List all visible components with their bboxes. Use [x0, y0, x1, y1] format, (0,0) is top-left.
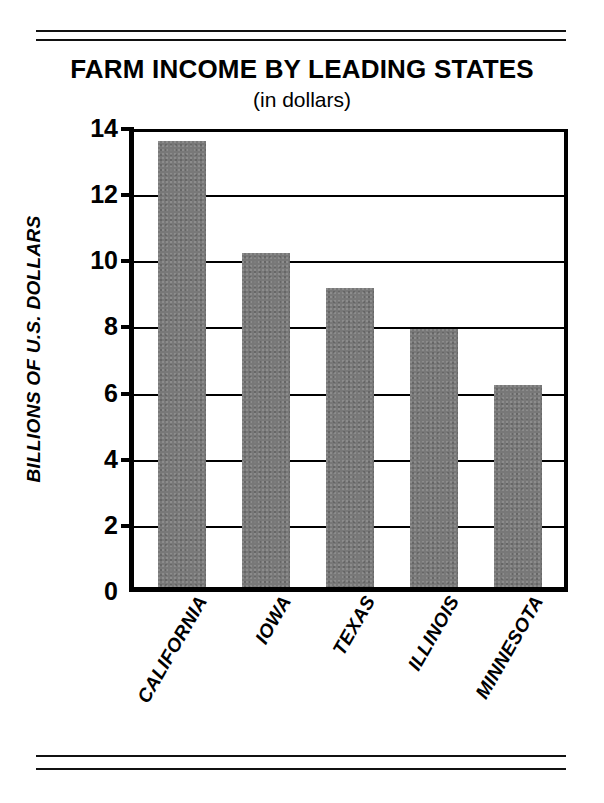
y-tick-mark-4: [121, 458, 134, 462]
bar-texas: [326, 288, 374, 587]
y-tick-label-10: 10: [62, 248, 118, 273]
plot-area: [129, 129, 568, 592]
chart-figure: FARM INCOME BY LEADING STATES (in dollar…: [0, 0, 604, 803]
y-tick-label-8: 8: [62, 314, 118, 339]
y-tick-label-4: 4: [62, 447, 118, 472]
bar-minnesota: [494, 385, 542, 587]
x-axis-tick-labels: CALIFORNIAIOWATEXASILLINOISMINNESOTA: [129, 592, 568, 752]
y-tick-label-6: 6: [62, 381, 118, 406]
gridline-14: [134, 129, 564, 132]
double-rule-bottom: [36, 755, 566, 770]
bar-iowa: [242, 253, 290, 587]
y-tick-label-2: 2: [62, 513, 118, 538]
x-tick-label-minnesota: MINNESOTA: [471, 592, 548, 703]
rule-line-bottom-2: [36, 768, 566, 770]
rule-line-top-2: [36, 39, 566, 41]
bar-illinois: [410, 329, 458, 587]
bar-california: [158, 141, 206, 587]
x-tick-label-texas: TEXAS: [329, 592, 380, 659]
y-tick-label-12: 12: [62, 182, 118, 207]
y-tick-mark-6: [121, 392, 134, 396]
rule-gap-bottom: [36, 757, 566, 768]
y-tick-mark-14: [121, 127, 134, 131]
x-tick-label-illinois: ILLINOIS: [404, 592, 464, 675]
y-tick-mark-8: [121, 325, 134, 329]
chart-title: FARM INCOME BY LEADING STATES: [0, 56, 604, 83]
y-tick-label-0: 0: [62, 579, 118, 604]
double-rule-top: [36, 30, 566, 41]
y-tick-mark-2: [121, 524, 134, 528]
rule-gap-top: [36, 32, 566, 39]
y-tick-mark-12: [121, 193, 134, 197]
chart-subtitle: (in dollars): [0, 89, 604, 111]
x-tick-label-iowa: IOWA: [251, 592, 296, 648]
y-tick-label-14: 14: [62, 116, 118, 141]
x-tick-label-california: CALIFORNIA: [133, 592, 212, 707]
y-tick-mark-10: [121, 259, 134, 263]
